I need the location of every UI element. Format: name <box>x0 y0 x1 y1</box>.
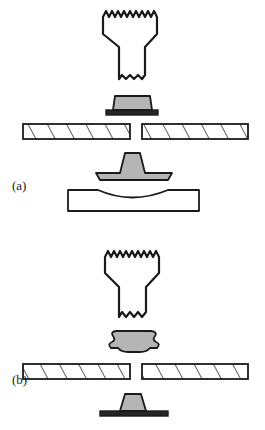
sheet-right <box>142 124 248 139</box>
panel-b-label: (b) <box>12 372 27 387</box>
riveting-process-figure: (a) (b) <box>0 0 265 430</box>
panel-a-label: (a) <box>12 178 26 193</box>
rivet-deformed <box>109 331 159 352</box>
rivet-undeformed <box>113 96 152 110</box>
sheet-left <box>23 124 130 139</box>
sheet-left <box>23 364 130 379</box>
sheet-right <box>142 364 248 379</box>
anvil-post <box>120 394 146 411</box>
figure-canvas: (a) (b) <box>0 0 265 430</box>
